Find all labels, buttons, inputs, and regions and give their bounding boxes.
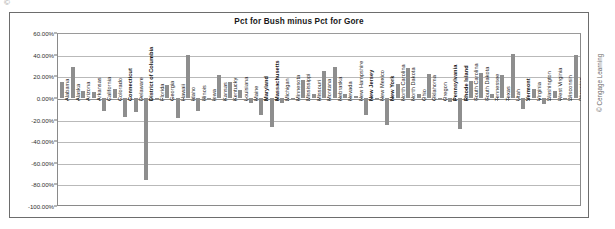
x-axis-category-label: Connecticut <box>127 69 133 102</box>
y-axis-tick-label: -20.00% <box>31 116 54 123</box>
y-axis-tick-label: -40.00% <box>31 138 54 145</box>
x-axis-category-labels: AlabamaAlaskaArizonaArkansasCaliforniaCo… <box>57 33 581 206</box>
x-axis-category-label: Montana <box>326 79 332 101</box>
x-axis-category-label: South Carolina <box>473 64 479 102</box>
x-axis-category-label: Ohio <box>421 89 427 101</box>
x-axis-category-label: District of Columbia <box>148 47 154 101</box>
x-axis-category-label: Rhode Island <box>463 66 469 102</box>
x-axis-category-label: Hawaii <box>180 84 186 101</box>
x-axis-category-label: Tennessee <box>494 74 500 102</box>
x-axis-category-label: Oregon <box>442 82 448 101</box>
x-axis-category-label: North Carolina <box>400 65 406 102</box>
x-axis-category-label: Iowa <box>211 89 217 101</box>
y-axis-tick-label: -60.00% <box>31 159 54 166</box>
x-axis-category-label: Oklahoma <box>431 75 437 101</box>
x-axis-category-label: Missouri <box>316 80 322 101</box>
x-axis-category-label: New Hampshire <box>358 61 364 101</box>
y-axis-tick-label: 40.00% <box>33 51 54 58</box>
x-axis-category-label: Utah <box>515 89 521 101</box>
chart-title: Pct for Bush minus Pct for Gore <box>10 17 588 26</box>
x-axis-category-label: Colorado <box>117 78 123 101</box>
y-axis: 60.00%40.00%20.00%0.00%-20.00%-40.00%-60… <box>10 33 54 206</box>
y-axis-tick-label: -80.00% <box>31 181 54 188</box>
y-axis-tick-label: -100.00% <box>28 203 54 210</box>
x-axis-category-label: Alabama <box>64 79 70 101</box>
clipped-caption-strip: © <box>0 0 615 10</box>
x-axis-category-label: Louisiana <box>243 77 249 101</box>
y-axis-tick-label: 60.00% <box>33 30 54 37</box>
y-axis-tick-label: 20.00% <box>33 73 54 80</box>
x-axis-category-label: North Dakota <box>410 68 416 102</box>
x-axis-category-label: Florida <box>159 84 165 101</box>
x-axis-category-label: Texas <box>505 87 511 102</box>
x-axis-category-label: Virginia <box>536 82 542 101</box>
x-axis-category-label: Vermont <box>525 79 531 102</box>
x-axis-category-label: New Mexico <box>379 70 385 101</box>
x-axis-category-label: Illinois <box>201 85 207 101</box>
x-axis-category-label: Nebraska <box>337 77 343 101</box>
x-axis-category-label: Wisconsin <box>567 75 573 101</box>
x-axis-category-label: Delaware <box>138 77 144 101</box>
x-axis-category-label: Kentucky <box>232 78 238 101</box>
x-axis-category-label: Mississippi <box>305 74 311 102</box>
x-axis-category-label: New York <box>389 76 395 101</box>
x-axis-category-label: Massachusetts <box>274 61 280 102</box>
chart-container: Pct for Bush minus Pct for Gore 60.00%40… <box>9 12 589 218</box>
x-axis-category-label: Nevada <box>347 82 353 102</box>
x-axis-category-label: Michigan <box>284 79 290 102</box>
x-axis-category-label: Wyoming <box>578 78 581 102</box>
x-axis-category-label: Maryland <box>263 76 269 101</box>
x-axis-category-label: Pennsylvania <box>452 65 458 101</box>
copyright-mark-top: © <box>4 0 10 7</box>
y-axis-tick-label: 0.00% <box>37 94 54 101</box>
x-axis-category-label: Alaska <box>75 84 81 101</box>
x-axis-category-label: Idaho <box>190 87 196 101</box>
x-axis-category-label: New Jersey <box>368 70 374 101</box>
x-axis-category-label: California <box>106 77 112 101</box>
x-axis-category-label: Maine <box>253 86 259 102</box>
x-axis-category-label: Arkansas <box>96 78 102 102</box>
copyright-notice: © Cengage Learning <box>596 54 603 112</box>
x-axis-category-label: Arizona <box>85 82 91 101</box>
x-axis-category-label: Georgia <box>169 81 175 101</box>
x-axis-category-label: South Dakota <box>484 67 490 102</box>
x-axis-category-label: Minnesota <box>295 75 301 101</box>
x-axis-category-label: Washington <box>546 72 552 102</box>
x-axis-category-label: Kansas <box>222 82 228 101</box>
x-axis-category-label: West Virginia <box>557 68 563 101</box>
